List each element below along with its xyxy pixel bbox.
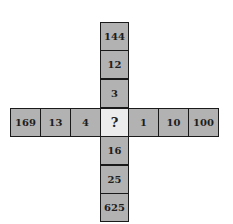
cell-bottom-3: 625 [100, 193, 129, 222]
cell-bottom-1: 16 [100, 136, 129, 165]
cell-right-3: 100 [188, 108, 219, 137]
cell-right-2: 10 [158, 108, 189, 137]
cell-bottom-2: 25 [100, 165, 129, 194]
cell-right-1: 1 [128, 108, 159, 137]
cell-left-2: 13 [40, 108, 71, 137]
cell-center-unknown: ? [100, 108, 129, 137]
cell-top-1: 144 [100, 22, 129, 51]
cell-left-1: 169 [10, 108, 41, 137]
cell-left-3: 4 [70, 108, 101, 137]
cell-top-2: 12 [100, 50, 129, 79]
cell-top-3: 3 [100, 79, 129, 108]
